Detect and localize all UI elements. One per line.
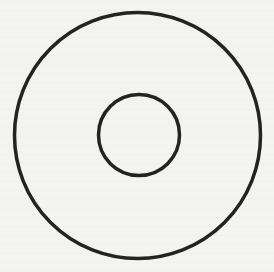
concentric-circles-diagram bbox=[0, 0, 274, 272]
inner-circle bbox=[99, 95, 180, 176]
outer-circle bbox=[15, 13, 261, 259]
